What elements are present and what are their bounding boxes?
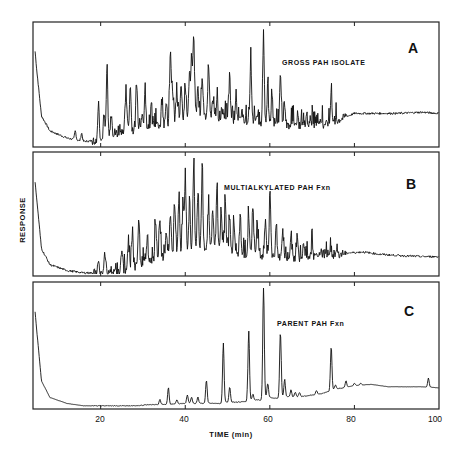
panel-b-title: MULTIALKYLATED PAH Fxn (224, 184, 331, 191)
panel-a: GROSS PAH ISOLATE A (33, 22, 439, 147)
chromatogram-trace (35, 158, 439, 274)
chromatogram-figure: RESPONSE GROSS PAH ISOLATE A MULTIALKYLA… (0, 0, 463, 456)
panel-c: PARENT PAH Fxn C (33, 282, 439, 409)
x-tick-label-40: 40 (179, 414, 189, 424)
panel-a-letter: A (408, 40, 418, 56)
panel-b-letter: B (406, 176, 416, 192)
x-tick-label-60: 60 (263, 414, 273, 424)
chromatogram-trace (35, 30, 439, 145)
panel-a-trace (35, 30, 439, 145)
panel-a-title: GROSS PAH ISOLATE (282, 59, 365, 66)
x-tick-label-80: 80 (346, 414, 356, 424)
panel-b: MULTIALKYLATED PAH Fxn B (33, 152, 439, 276)
panel-c-trace (35, 288, 439, 406)
panel-c-frame (33, 282, 439, 409)
panel-c-letter: C (404, 303, 414, 319)
x-tick-label-20: 20 (95, 414, 105, 424)
panel-a-frame (33, 22, 439, 147)
chromatogram-trace (35, 288, 439, 406)
x-axis: 20 40 60 80 100 TIME (min) (95, 414, 442, 439)
panel-b-trace (35, 158, 439, 274)
panel-b-frame (33, 152, 439, 276)
x-axis-label: TIME (min) (209, 430, 252, 439)
y-axis-label: RESPONSE (18, 197, 27, 243)
x-axis-ticks (101, 22, 355, 409)
x-tick-label-100: 100 (428, 414, 442, 424)
panel-c-title: PARENT PAH Fxn (277, 320, 344, 327)
